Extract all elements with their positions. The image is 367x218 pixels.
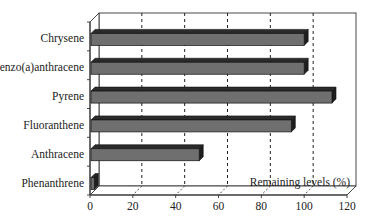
- bar-top: [91, 87, 336, 91]
- bar-face: [91, 62, 304, 74]
- x-tick-label: 0: [87, 200, 93, 212]
- bar-face: [91, 120, 291, 132]
- category-label: Phenanthrene: [21, 177, 84, 189]
- category-label: Fluoranthene: [23, 119, 84, 131]
- bar-top: [91, 58, 308, 62]
- bar-face: [91, 91, 332, 103]
- category-label: Anthracene: [31, 148, 84, 160]
- bar-top: [91, 29, 308, 33]
- bar-pyrene: [91, 87, 336, 103]
- bar-anthracene: [91, 145, 203, 161]
- category-label: Chrysene: [41, 32, 84, 45]
- bar-chart: 020406080100120ChryseneBenzo(a)anthracen…: [0, 0, 367, 218]
- category-label: Pyrene: [52, 90, 84, 103]
- category-label: Benzo(a)anthracene: [0, 61, 84, 74]
- bar-top: [91, 145, 203, 149]
- x-tick-label: 20: [127, 200, 139, 212]
- x-tick-label: 80: [256, 200, 268, 212]
- x-tick-label: 60: [213, 200, 225, 212]
- x-tick-label: 100: [296, 200, 314, 212]
- bar-face: [91, 178, 94, 190]
- bar-face: [91, 33, 304, 45]
- x-tick-label: 120: [338, 200, 356, 212]
- bar-benzo-a-anthracene: [91, 58, 308, 74]
- bar-chrysene: [91, 29, 308, 45]
- bar-fluoranthene: [91, 116, 295, 132]
- x-axis-title: Remaining levels (%): [250, 176, 350, 189]
- bar-face: [91, 149, 199, 161]
- bar-top: [91, 116, 295, 120]
- x-tick-label: 40: [170, 200, 182, 212]
